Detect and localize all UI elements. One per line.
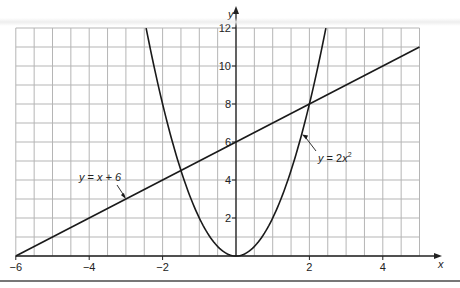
- x-tick-label: 2: [306, 261, 312, 273]
- bottom-divider: [0, 280, 460, 282]
- x-axis-label: x: [437, 258, 444, 270]
- y-tick-label: 10: [219, 60, 231, 72]
- y-axis-arrow-icon: [233, 6, 239, 14]
- y-tick-label: 2: [225, 212, 231, 224]
- parabola-equation-label: y = 2x2: [317, 151, 352, 164]
- y-tick-label: 8: [225, 98, 231, 110]
- arrowhead-icon: [121, 193, 126, 199]
- x-tick-label: −6: [10, 261, 23, 273]
- scan-artifact-band: [0, 18, 460, 26]
- axis-ticks: −6−4−22424681012: [10, 22, 386, 273]
- arrowhead-icon: [302, 134, 308, 139]
- x-tick-label: −2: [156, 261, 169, 273]
- x-tick-label: −4: [83, 261, 96, 273]
- x-tick-label: 4: [380, 261, 386, 273]
- line-equation-label: y = x + 6: [78, 171, 122, 183]
- graph-figure: −6−4−22424681012 y = x + 6 y = 2x2 y x: [0, 0, 460, 288]
- coordinate-plot: −6−4−22424681012 y = x + 6 y = 2x2 y x: [0, 0, 460, 288]
- grid-lines: [16, 28, 420, 256]
- y-tick-label: 4: [225, 174, 231, 186]
